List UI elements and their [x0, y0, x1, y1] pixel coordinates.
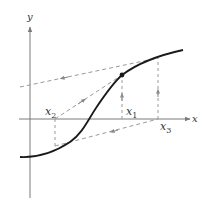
x-axis-label: x	[192, 113, 198, 124]
y-axis-label: y	[26, 11, 33, 22]
label-x3: x3	[160, 120, 171, 135]
tangent-line-x1	[55, 75, 122, 119]
tangent-arrow-x3	[62, 77, 68, 78]
label-x2: x2	[45, 105, 56, 120]
newton-method-diagram: y x x2 x1 x3	[0, 0, 202, 207]
tangent-line-x3	[20, 58, 158, 87]
function-curve	[20, 50, 183, 157]
point-x1	[120, 73, 125, 78]
tangent-arrow-x1	[78, 100, 84, 104]
label-x1: x1	[126, 105, 137, 120]
